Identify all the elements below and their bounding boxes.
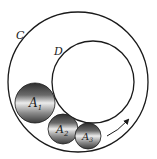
ball-a2: A2 (48, 114, 78, 144)
ball-a1: A1 (15, 83, 55, 123)
concentric-circles-diagram: A1 A2 A3 C D (0, 0, 157, 159)
ball-a3: A3 (75, 123, 101, 149)
label-c: C (16, 29, 25, 42)
label-d: D (53, 45, 63, 58)
inner-circle-d (52, 41, 134, 123)
